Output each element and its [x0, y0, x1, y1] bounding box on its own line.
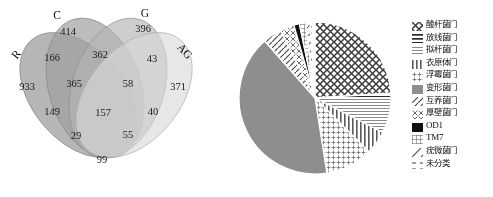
legend-label-5: 变形菌门: [426, 81, 457, 94]
legend-item-7[interactable]: 厚壁菌门: [412, 106, 493, 119]
venn-region-C_only: 414: [60, 26, 77, 37]
legend-label-4: 浮霉菌门: [426, 68, 457, 81]
venn-region-G_only: 396: [135, 23, 151, 34]
legend-label-9: TM7: [426, 131, 443, 144]
legend-swatch-icon-3: [412, 58, 423, 67]
venn-region-AG_only: 371: [170, 81, 186, 92]
legend-swatch-icon-10: [412, 146, 423, 155]
pie-chart-panel: [236, 0, 396, 197]
venn-region-R_C_G_AG: 157: [95, 107, 111, 118]
pie-chart: [236, 0, 396, 197]
legend-swatch-icon-1: [412, 32, 423, 41]
pie-slice-0[interactable]: [315, 22, 391, 98]
venn-region-C_AG: 55: [123, 129, 134, 140]
venn-region-R_only: 933: [19, 81, 35, 92]
legend-swatch-icon-0: [412, 20, 423, 29]
legend-label-3: 衣原体门: [426, 56, 457, 69]
venn-set-label-C: C: [53, 9, 61, 21]
legend-swatch-icon-7: [412, 108, 423, 117]
venn-region-R_C: 166: [44, 52, 60, 63]
legend-label-11: 未分类: [426, 157, 449, 170]
venn-region-G_AG: 43: [147, 53, 158, 64]
venn-diagram-panel: 414 396 166 362 43 933 365 58 371 149 15…: [0, 0, 248, 197]
venn-region-R_G: 29: [71, 130, 82, 141]
legend-item-8[interactable]: OD1: [412, 119, 493, 132]
legend-item-11[interactable]: 未分类: [412, 157, 493, 170]
venn-region-C_G_AG: 58: [123, 78, 134, 89]
legend-swatch-icon-6: [412, 95, 423, 104]
legend-item-3[interactable]: 衣原体门: [412, 56, 493, 69]
legend-label-1: 放线菌门: [426, 31, 457, 44]
legend-item-9[interactable]: TM7: [412, 131, 493, 144]
legend-item-5[interactable]: 变形菌门: [412, 81, 493, 94]
legend-label-10: 疣微菌门: [426, 144, 457, 157]
legend-label-8: OD1: [426, 119, 443, 132]
legend-item-6[interactable]: 互养菌门: [412, 94, 493, 107]
legend-label-0: 酸杆菌门: [426, 18, 457, 31]
legend-item-4[interactable]: 浮霉菌门: [412, 68, 493, 81]
pie-legend: 酸杆菌门放线菌门拟杆菌门衣原体门浮霉菌门变形菌门互养菌门厚壁菌门OD1TM7疣微…: [412, 18, 493, 183]
venn-region-C_G: 362: [92, 49, 108, 60]
legend-label-2: 拟杆菌门: [426, 43, 457, 56]
legend-swatch-icon-8: [412, 121, 423, 130]
legend-swatch-icon-5: [412, 83, 423, 92]
legend-swatch-icon-9: [412, 133, 423, 142]
legend-item-2[interactable]: 拟杆菌门: [412, 43, 493, 56]
venn-region-R_C_G: 365: [66, 78, 82, 89]
pie-slices: [239, 22, 391, 174]
venn-diagram: 414 396 166 362 43 933 365 58 371 149 15…: [0, 0, 248, 197]
legend-label-6: 互养菌门: [426, 94, 457, 107]
legend-swatch-icon-11: [412, 158, 423, 167]
figure-root: 414 396 166 362 43 933 365 58 371 149 15…: [0, 0, 493, 197]
venn-set-label-G: G: [141, 7, 149, 19]
legend-swatch-icon-2: [412, 45, 423, 54]
venn-region-G_bottom_only: 99: [97, 154, 108, 165]
legend-item-1[interactable]: 放线菌门: [412, 31, 493, 44]
venn-region-G_AG_lower: 40: [148, 106, 159, 117]
legend-swatch-icon-4: [412, 70, 423, 79]
legend-label-7: 厚壁菌门: [426, 106, 457, 119]
venn-region-R_C_lower: 149: [44, 106, 60, 117]
legend-item-10[interactable]: 疣微菌门: [412, 144, 493, 157]
legend-item-0[interactable]: 酸杆菌门: [412, 18, 493, 31]
